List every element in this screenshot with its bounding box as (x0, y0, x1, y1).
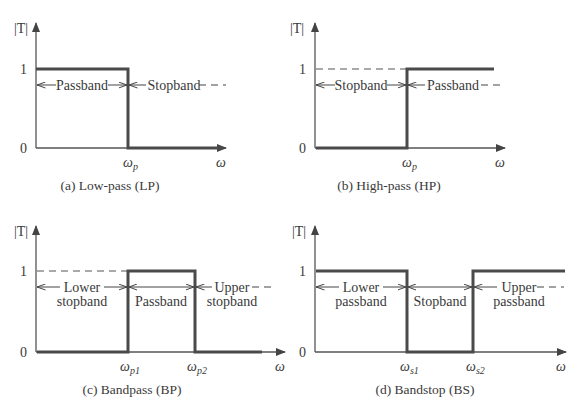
tick-1: 1 (299, 264, 306, 279)
panel-bandstop: |T| 1 0 Lower passband Stopband Upper pa… (292, 224, 566, 397)
tick-0: 0 (299, 345, 306, 360)
panel-caption: (a) Low-pass (LP) (61, 178, 160, 193)
y-axis-label: |T| (290, 21, 304, 36)
region-label: Upper (215, 280, 250, 295)
tick-1: 1 (20, 264, 27, 279)
x-tick-omega-s1: ωs1 (400, 359, 419, 376)
region-label: Stopband (414, 294, 467, 309)
x-axis-label: ω (275, 359, 285, 374)
region-label: passband (335, 294, 386, 309)
x-tick-omega-p: ωp (402, 155, 417, 172)
region-label: Passband (135, 294, 187, 309)
x-tick-omega-p2: ωp2 (187, 359, 207, 376)
panel-low-pass: |T| 1 0 Passband Stopband ωp ω (a) Low-p… (14, 21, 226, 193)
region-label: Lower (343, 280, 380, 295)
region-label: Lower (64, 280, 101, 295)
region-label: passband (493, 294, 544, 309)
x-axis-label: ω (556, 359, 566, 374)
tick-1: 1 (20, 62, 27, 77)
x-tick-omega-p1: ωp1 (120, 359, 140, 376)
region-label: Stopband (148, 78, 201, 93)
panel-bandpass: |T| 1 0 Lower stopband Passband Upper st… (14, 224, 285, 397)
panel-caption: (c) Bandpass (BP) (83, 382, 182, 397)
region-label: Passband (427, 78, 479, 93)
region-label: stopband (207, 294, 258, 309)
panel-high-pass: |T| 1 0 Stopband Passband ωp ω (b) High-… (290, 21, 505, 193)
panel-caption: (d) Bandstop (BS) (376, 382, 475, 397)
y-axis-label: |T| (14, 21, 28, 36)
region-label: Upper (502, 280, 537, 295)
filter-types-figure: |T| 1 0 Passband Stopband ωp ω (a) Low-p… (0, 0, 582, 410)
x-tick-omega-p: ωp (123, 155, 138, 172)
y-axis-label: |T| (292, 224, 306, 239)
x-axis-label: ω (216, 155, 226, 170)
region-label: Stopband (335, 78, 388, 93)
tick-0: 0 (299, 141, 306, 156)
region-label: stopband (57, 294, 108, 309)
panel-caption: (b) High-pass (HP) (337, 178, 441, 193)
region-label: Passband (56, 78, 108, 93)
tick-0: 0 (20, 141, 27, 156)
tick-1: 1 (299, 62, 306, 77)
x-tick-omega-s2: ωs2 (466, 359, 485, 376)
tick-0: 0 (20, 345, 27, 360)
y-axis-label: |T| (14, 224, 28, 239)
x-axis-label: ω (495, 155, 505, 170)
